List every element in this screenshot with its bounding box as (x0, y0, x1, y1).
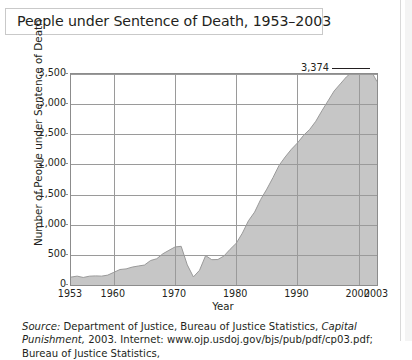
y-tick-label: 1,000 (26, 219, 66, 229)
x-tick-label: 1980 (215, 288, 255, 299)
y-tick-mark (64, 73, 68, 74)
gridline-vertical (359, 74, 360, 285)
y-tick-mark (64, 163, 68, 164)
x-axis-title: Year (70, 301, 376, 312)
gridline-horizontal (71, 255, 377, 256)
y-tick-mark (64, 224, 68, 225)
x-tick-label: 1970 (154, 288, 194, 299)
page-title: People under Sentence of Death, 1953–200… (17, 13, 331, 29)
y-tick-label: 1,500 (26, 189, 66, 199)
gridline-vertical (236, 74, 237, 285)
gridline-vertical (175, 74, 176, 285)
chart-figure: Number of People under Sentence of Death… (0, 40, 400, 312)
annotation-leader-line (332, 68, 370, 69)
y-tick-mark (64, 254, 68, 255)
x-tick-label: 1990 (276, 288, 316, 299)
data-label-3374: 3,374 (301, 62, 329, 73)
y-tick-label: 3,000 (26, 98, 66, 108)
page-margin-strip (405, 0, 412, 341)
gridline-vertical (297, 74, 298, 285)
gridline-horizontal (71, 164, 377, 165)
x-tick-label: 1960 (93, 288, 133, 299)
x-tick-label: 1953 (50, 288, 90, 299)
y-tick-mark (64, 284, 68, 285)
area-series (71, 74, 377, 285)
gridline-horizontal (71, 74, 377, 75)
x-axis-tick-labels: 1953196019701980199020002003 (70, 288, 390, 302)
y-axis-tick-labels: 05001,0001,5002,0002,5003,0003,500 (22, 73, 66, 284)
y-tick-label: 2,000 (26, 158, 66, 168)
y-tick-label: 500 (26, 249, 66, 259)
gridline-horizontal (71, 195, 377, 196)
source-note: Source: Department of Justice, Bureau of… (22, 320, 397, 360)
source-body: Department of Justice, Bureau of Justice… (64, 321, 319, 332)
y-tick-label: 2,500 (26, 128, 66, 138)
y-tick-mark (64, 194, 68, 195)
plot-area (70, 73, 378, 286)
gridline-vertical (114, 74, 115, 285)
chart-title-box: People under Sentence of Death, 1953–200… (5, 8, 323, 35)
y-tick-label: 3,500 (26, 68, 66, 78)
y-tick-mark (64, 103, 68, 104)
x-tick-label: 2003 (356, 288, 396, 299)
gridline-horizontal (71, 104, 377, 105)
page-edge-rule (400, 0, 401, 341)
gridline-horizontal (71, 225, 377, 226)
source-prefix: Source: (22, 321, 60, 332)
y-tick-mark (64, 133, 68, 134)
gridline-horizontal (71, 134, 377, 135)
plot-inner (71, 74, 377, 285)
